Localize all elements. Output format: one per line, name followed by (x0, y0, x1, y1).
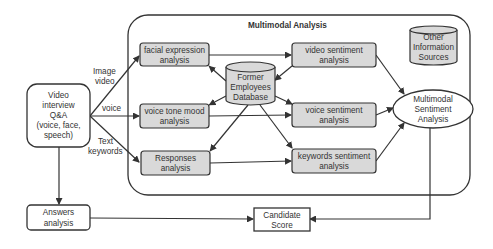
svg-text:keywords sentiment: keywords sentiment (298, 152, 371, 161)
svg-text:facial expression: facial expression (144, 46, 205, 55)
edge-db-responses (210, 105, 248, 151)
svg-text:analysis: analysis (319, 56, 349, 65)
svg-text:Q&A: Q&A (50, 111, 68, 120)
svg-text:Database: Database (233, 93, 268, 102)
node-facial-expression: facial expression analysis (140, 43, 209, 66)
edge-db-voicetone (209, 96, 226, 105)
svg-text:Answers: Answers (43, 208, 74, 217)
node-responses: Responses analysis (141, 151, 210, 175)
svg-text:analysis: analysis (160, 56, 190, 65)
label-voice: voice (102, 104, 122, 113)
node-video-interview: Video interview Q&A (voice, face, speech… (27, 84, 90, 147)
node-former-employees-database: Former Employees Database (226, 62, 275, 105)
svg-text:analysis: analysis (319, 116, 349, 125)
svg-text:Candidate: Candidate (263, 211, 301, 220)
edge-keywordssent-multimodal (376, 123, 404, 161)
svg-text:Responses: Responses (155, 154, 196, 163)
node-multimodal-sentiment-analysis: Multimodal Sentiment Analysis (393, 90, 473, 128)
edge-videosent-multimodal (376, 55, 404, 94)
edge-db-voicesent (275, 96, 292, 104)
svg-text:voice tone mood: voice tone mood (144, 107, 205, 116)
node-keywords-sentiment: keywords sentiment analysis (292, 149, 376, 173)
svg-text:analysis: analysis (161, 164, 191, 173)
node-voice-tone-mood: voice tone mood analysis (140, 104, 209, 128)
svg-text:Sentiment: Sentiment (415, 105, 453, 114)
edge-db-keywordssent (260, 105, 292, 148)
edge-videosent-db (275, 66, 292, 80)
label-text: Text (98, 137, 114, 146)
svg-text:analysis: analysis (44, 219, 74, 228)
label-keywords: keywords (88, 147, 123, 156)
svg-text:Employees: Employees (230, 83, 271, 92)
svg-text:analysis: analysis (319, 162, 349, 171)
svg-text:Analysis: Analysis (418, 115, 449, 124)
svg-text:Former: Former (237, 73, 264, 82)
edge-db-facial (209, 66, 226, 81)
container-title: Multimodal Analysis (248, 21, 327, 30)
node-candidate-score: Candidate Score (254, 208, 310, 231)
diagram-canvas: Multimodal Analysis Image video voice Te… (0, 0, 493, 249)
svg-text:Sources: Sources (418, 53, 448, 62)
svg-text:analysis: analysis (160, 117, 190, 126)
svg-text:voice sentiment: voice sentiment (306, 106, 364, 115)
node-other-information-sources: Other Information Sources (410, 26, 457, 65)
edge-responses-to-keywords-sentiment (210, 161, 291, 163)
label-video: video (95, 77, 115, 86)
svg-text:Multimodal: Multimodal (413, 95, 453, 104)
label-image: Image (93, 67, 116, 76)
svg-text:Video: Video (48, 91, 69, 100)
edge-voicesent-multimodal (376, 108, 393, 115)
node-voice-sentiment: voice sentiment analysis (292, 103, 376, 127)
svg-text:Score: Score (271, 221, 293, 230)
svg-text:(voice, face,: (voice, face, (36, 121, 80, 130)
edge-answers-score (90, 218, 253, 219)
svg-text:interview: interview (42, 101, 74, 110)
svg-text:video sentiment: video sentiment (305, 46, 363, 55)
node-answers-analysis: Answers analysis (27, 205, 90, 230)
svg-text:Information: Information (413, 43, 454, 52)
svg-text:speech): speech) (44, 131, 73, 140)
node-video-sentiment: video sentiment analysis (292, 43, 376, 67)
svg-text:Other: Other (423, 33, 444, 42)
edge-voicetone-to-voice-sentiment (209, 115, 291, 116)
